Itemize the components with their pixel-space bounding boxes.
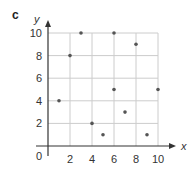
origin-label: 0 xyxy=(36,150,42,162)
data-point xyxy=(112,88,116,92)
x-tick-label: 10 xyxy=(152,153,164,165)
x-tick-label: 2 xyxy=(67,153,73,165)
x-tick-label: 6 xyxy=(111,153,117,165)
data-point xyxy=(156,88,160,92)
x-tick-label: 4 xyxy=(89,153,95,165)
scatter-plot: 2468102468100xy xyxy=(0,0,188,172)
data-point xyxy=(57,99,61,103)
data-point xyxy=(134,43,138,47)
data-point xyxy=(112,31,116,35)
data-point xyxy=(123,110,127,114)
x-axis-label: x xyxy=(180,140,187,152)
data-point xyxy=(68,54,72,58)
y-axis-arrow-icon xyxy=(45,20,51,27)
x-axis-arrow-icon xyxy=(169,143,176,149)
y-tick-label: 8 xyxy=(36,50,42,62)
data-point xyxy=(145,133,149,137)
y-axis-label: y xyxy=(33,13,41,25)
y-tick-label: 2 xyxy=(36,117,42,129)
y-tick-label: 10 xyxy=(30,27,42,39)
data-point xyxy=(101,133,105,137)
data-point xyxy=(79,31,83,35)
x-tick-label: 8 xyxy=(133,153,139,165)
y-tick-label: 4 xyxy=(36,95,42,107)
y-tick-label: 6 xyxy=(36,72,42,84)
data-point xyxy=(90,122,94,126)
